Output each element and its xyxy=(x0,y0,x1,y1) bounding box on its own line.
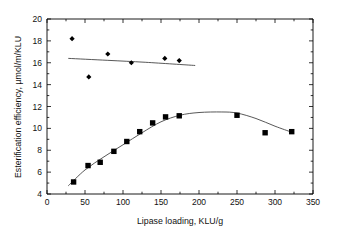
scatter-plot: 050100150200250300350 468101214161820 Li… xyxy=(0,0,338,230)
data-point-square xyxy=(177,113,182,118)
x-tick-label: 350 xyxy=(306,197,320,207)
y-axis-title: Esterification efficiency, µmol/m/KLU xyxy=(13,36,23,178)
data-point-square xyxy=(98,160,103,165)
data-point-square xyxy=(262,130,267,135)
y-tick-label: 6 xyxy=(37,167,42,177)
x-tick-label: 50 xyxy=(80,197,90,207)
chart-container: 050100150200250300350 468101214161820 Li… xyxy=(0,0,338,230)
data-point-square xyxy=(111,149,116,154)
y-tick-label: 14 xyxy=(33,80,43,90)
data-point-square xyxy=(124,139,129,144)
data-point-square xyxy=(137,129,142,134)
data-point-square xyxy=(85,163,90,168)
y-tick-label: 8 xyxy=(37,145,42,155)
x-tick-label: 150 xyxy=(154,197,168,207)
y-tick-label: 20 xyxy=(33,14,43,24)
x-tick-label: 250 xyxy=(230,197,244,207)
data-point-square xyxy=(150,120,155,125)
x-tick-label: 300 xyxy=(268,197,282,207)
x-tick-label: 100 xyxy=(116,197,130,207)
y-tick-label: 4 xyxy=(37,189,42,199)
data-point-square xyxy=(289,129,294,134)
chart-background xyxy=(0,0,338,230)
y-tick-label: 12 xyxy=(33,102,43,112)
data-point-square xyxy=(234,113,239,118)
x-tick-label: 200 xyxy=(192,197,206,207)
x-tick-label: 0 xyxy=(45,197,50,207)
y-tick-label: 10 xyxy=(33,123,43,133)
y-tick-label: 16 xyxy=(33,58,43,68)
data-point-square xyxy=(163,114,168,119)
data-point-square xyxy=(71,179,76,184)
x-axis-title: Lipase loading, KLU/g xyxy=(137,216,223,226)
y-tick-label: 18 xyxy=(33,36,43,46)
